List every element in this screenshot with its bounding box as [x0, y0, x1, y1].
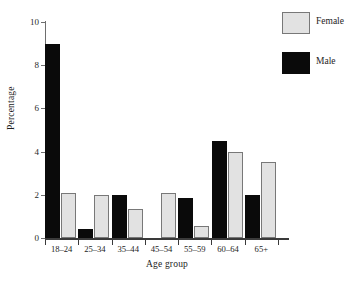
- y-tick-label-8: 8: [15, 61, 39, 70]
- x-axis-title: Age group: [45, 259, 289, 269]
- bar-group: [178, 22, 211, 238]
- legend-item-male: Male: [282, 50, 352, 78]
- x-tick-label-55–59: 55–59: [184, 244, 205, 254]
- x-tick-label-60–64: 60–64: [217, 244, 238, 254]
- bar-group: [145, 22, 178, 238]
- bar-group: [245, 22, 278, 238]
- bar-female-55–59: [194, 226, 209, 238]
- bar-male-60–64: [212, 141, 227, 238]
- bar-male-65+: [245, 195, 260, 238]
- bar-group: [112, 22, 145, 238]
- y-tick-0: [41, 238, 45, 239]
- x-tick: [112, 240, 113, 245]
- legend: Female Male: [282, 10, 352, 90]
- y-tick-label-0: 0: [15, 234, 39, 243]
- bar-female-18–24: [61, 193, 76, 238]
- x-tick: [45, 240, 46, 245]
- legend-label-female: Female: [316, 16, 344, 26]
- plot-area: [45, 22, 278, 238]
- x-tick-label-45–54: 45–54: [151, 244, 172, 254]
- x-tick: [178, 240, 179, 245]
- bar-female-60–64: [228, 152, 243, 238]
- x-tick-label-25–34: 25–34: [84, 244, 105, 254]
- x-tick: [245, 240, 246, 245]
- bar-group: [211, 22, 244, 238]
- legend-label-male: Male: [316, 56, 336, 66]
- bar-chart: Percentage 0246810 18–2425–3435–4445–545…: [0, 0, 353, 282]
- y-tick-label-10: 10: [15, 18, 39, 27]
- bar-male-35–44: [112, 195, 127, 238]
- bar-male-55–59: [178, 198, 193, 238]
- y-tick-label-6: 6: [15, 104, 39, 113]
- bar-female-25–34: [94, 195, 109, 238]
- x-tick-label-35–44: 35–44: [117, 244, 138, 254]
- legend-swatch-male-icon: [282, 52, 310, 74]
- bar-male-25–34: [78, 229, 93, 238]
- x-tick-label-18–24: 18–24: [51, 244, 72, 254]
- legend-item-female: Female: [282, 10, 352, 38]
- x-tick: [211, 240, 212, 245]
- x-axis-line: [45, 238, 289, 240]
- x-tick: [78, 240, 79, 245]
- legend-swatch-female-icon: [282, 12, 310, 34]
- bar-female-35–44: [128, 209, 143, 238]
- x-tick: [278, 240, 279, 245]
- x-tick: [145, 240, 146, 245]
- bar-group: [45, 22, 78, 238]
- bar-female-45–54: [161, 193, 176, 238]
- bar-group: [78, 22, 111, 238]
- y-tick-label-4: 4: [15, 147, 39, 156]
- x-tick-label-65+: 65+: [255, 244, 268, 254]
- bar-female-65+: [261, 162, 276, 238]
- y-tick-label-2: 2: [15, 190, 39, 199]
- bar-male-18–24: [45, 44, 60, 238]
